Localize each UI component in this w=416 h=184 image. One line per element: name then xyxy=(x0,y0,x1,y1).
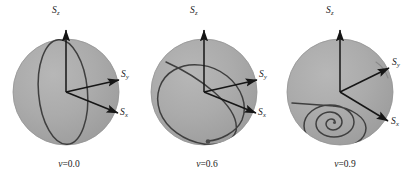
axis-label-y: Sy xyxy=(259,70,267,80)
trajectory-endpoint xyxy=(206,139,211,144)
panel-caption: v=0.6 xyxy=(138,160,276,170)
axis-label-z: Sz xyxy=(190,6,197,16)
axis-label-x: Sx xyxy=(391,117,399,127)
panel-caption: v=0.0 xyxy=(0,160,138,170)
panel-caption: v=0.9 xyxy=(276,160,414,170)
axis-label-x: Sx xyxy=(258,108,266,118)
panel-v00: Sz Sy Sx v=0.0 xyxy=(0,0,138,184)
trajectory-endpoint xyxy=(333,121,336,124)
panel-v09: Sz Sy Sx v=0.9 xyxy=(276,0,414,184)
panel-v06: Sz Sy Sx v=0.6 xyxy=(138,0,276,184)
axis-label-z: Sz xyxy=(326,6,333,16)
axis-label-x: Sx xyxy=(120,108,128,118)
axis-label-z: Sz xyxy=(52,6,59,16)
bloch-sphere-figure: Sz Sy Sx v=0.0 xyxy=(0,0,416,184)
panel-v06-graphic xyxy=(138,0,276,184)
panel-v00-graphic xyxy=(0,0,138,184)
axis-label-y: Sy xyxy=(121,70,129,80)
axis-label-y: Sy xyxy=(392,58,400,68)
panel-v09-graphic xyxy=(276,0,414,184)
